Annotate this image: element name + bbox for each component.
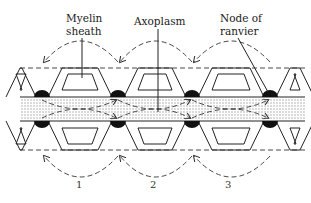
step-label-2: 2 (150, 179, 156, 190)
current-arc-bottom (44, 156, 118, 177)
myelin-sheath-bottom-outer (48, 121, 112, 150)
current-arc-top (194, 41, 270, 62)
myelin-sheath-bottom-inner (16, 128, 26, 144)
myelin-sheath-top-outer (6, 68, 36, 97)
myelin-sheath-top-inner (16, 74, 26, 90)
current-arc-bottom (120, 156, 192, 177)
node-of-ranvier-top (262, 90, 278, 97)
node-of-ranvier-bottom (110, 121, 126, 128)
myelin-sheath-bottom-outer (6, 121, 36, 150)
myelin-sheath-bottom-outer (124, 121, 186, 150)
step-label-3: 3 (225, 179, 231, 190)
label-myelin-line2: sheath (66, 25, 102, 37)
label-node-line2: ranvier (220, 25, 260, 37)
myelin-sheath-bottom-inner (290, 128, 300, 144)
node-of-ranvier-top (184, 90, 200, 97)
node-of-ranvier-bottom (184, 121, 200, 128)
node-of-ranvier-bottom (262, 121, 278, 128)
label-myelin-line1: Myelin (66, 12, 103, 24)
current-arc-top (44, 41, 118, 62)
step-label-1: 1 (76, 179, 82, 190)
myelin-sheath-top-inner (212, 74, 250, 90)
current-arc-bottom (194, 156, 270, 177)
node-of-ranvier-top (34, 90, 50, 97)
saltatory-conduction-diagram: Myelin sheath Axoplasm Node of ranvier 1… (0, 0, 311, 203)
myelin-sheath-top-inner (290, 74, 300, 90)
current-arc-top (120, 41, 192, 62)
myelin-sheath-bottom-inner (62, 128, 98, 144)
myelin-sheath-top-outer (48, 68, 112, 97)
axoplasm-region (20, 98, 305, 120)
leader-node (238, 38, 268, 92)
myelin-sheath-bottom-outer (198, 121, 264, 150)
myelin-sheath-bottom-outer (276, 121, 311, 150)
label-axoplasm: Axoplasm (133, 15, 186, 27)
myelin-sheath-top-outer (198, 68, 264, 97)
node-of-ranvier-top (110, 90, 126, 97)
myelin-sheath-top-inner (138, 74, 172, 90)
myelin-sheath-top-inner (62, 74, 98, 90)
myelin-sheath-top-outer (124, 68, 186, 97)
label-node-line1: Node of (220, 12, 263, 24)
myelin-sheath-bottom-inner (212, 128, 250, 144)
node-of-ranvier-bottom (34, 121, 50, 128)
myelin-sheath-bottom-inner (138, 128, 172, 144)
myelin-sheath-top-outer (276, 68, 311, 97)
